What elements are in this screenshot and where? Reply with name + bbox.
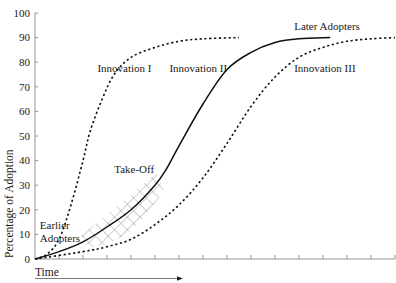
annotation-later-adopters: Later Adopters — [294, 20, 360, 32]
y-tick-label: 30 — [19, 179, 31, 191]
y-axis: 0102030405060708090100 — [14, 7, 39, 265]
y-tick-label: 90 — [19, 31, 31, 43]
y-tick-label: 100 — [14, 7, 31, 19]
annotation-adopters: Adopters — [40, 232, 80, 244]
annotation-earlier: Earlier — [40, 219, 70, 231]
x-axis-label: Time — [35, 266, 59, 278]
x-axis — [35, 255, 395, 259]
annotation-innovation-iii: Innovation III — [294, 62, 356, 74]
annotation-innovation-i: Innovation I — [97, 62, 151, 74]
y-tick-label: 40 — [19, 154, 31, 166]
annotation-take-off: Take-Off — [114, 163, 154, 175]
y-tick-label: 50 — [19, 130, 31, 142]
y-tick-label: 10 — [19, 228, 31, 240]
diffusion-chart: 0102030405060708090100 Innovation IInnov… — [0, 0, 396, 283]
annotation-innovation-ii: Innovation II — [169, 62, 227, 74]
y-tick-label: 70 — [19, 81, 31, 93]
y-tick-label: 80 — [19, 56, 31, 68]
y-tick-label: 20 — [19, 204, 31, 216]
y-tick-label: 0 — [25, 253, 31, 265]
annotation-layer: Innovation IInnovation IIInnovation IIIL… — [40, 20, 360, 244]
y-axis-label: Percentage of Adoption — [3, 149, 16, 258]
y-tick-label: 60 — [19, 105, 31, 117]
